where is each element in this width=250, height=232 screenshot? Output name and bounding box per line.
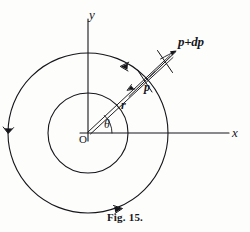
diagram-canvas: .stroke-ink { stroke: #16161a; fill: non… [0, 0, 250, 232]
radius-r-label: r [121, 99, 126, 111]
pressure-p-plus-dp-label: p+dp [178, 35, 204, 48]
radial-vector-arrow-icon [127, 85, 135, 91]
pressure-p-label: p [144, 81, 150, 93]
origin-label: O [79, 134, 87, 145]
y-axis-label: y [89, 8, 95, 21]
x-axis-label: x [232, 126, 238, 139]
pressure-arrow-icon [161, 51, 177, 59]
angle-theta-label: θ [104, 118, 110, 130]
figure-caption: Fig. 15. [0, 212, 250, 223]
figure-15-diagram: .stroke-ink { stroke: #16161a; fill: non… [0, 0, 250, 232]
